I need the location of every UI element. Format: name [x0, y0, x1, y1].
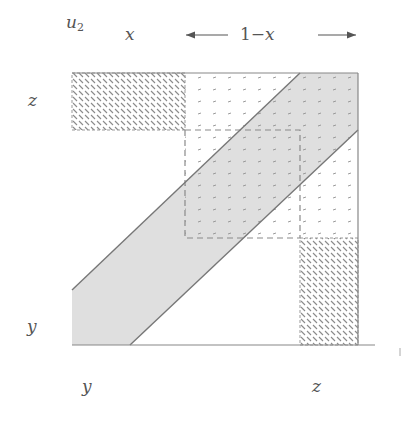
- label-z-left: z: [28, 92, 37, 109]
- lower-right-hatched-region: [300, 238, 358, 345]
- label-u-subscript: 2: [77, 21, 84, 34]
- label-z-bottom: z: [312, 378, 321, 395]
- label-one-minus: 1−: [240, 24, 265, 44]
- label-y-left: y: [27, 318, 37, 335]
- label-x-top: x: [125, 26, 135, 43]
- partition-diagram: [0, 0, 403, 437]
- label-u-text: u: [66, 12, 77, 32]
- right-arrow-icon: [318, 32, 356, 39]
- upper-left-hatched-region: [72, 73, 185, 130]
- label-one-minus-x: 1−x: [240, 26, 275, 43]
- label-one-minus-x-var: x: [265, 24, 275, 44]
- left-arrow-icon: [186, 32, 228, 39]
- label-y-bottom: y: [82, 378, 92, 395]
- label-u2: u2: [66, 14, 84, 33]
